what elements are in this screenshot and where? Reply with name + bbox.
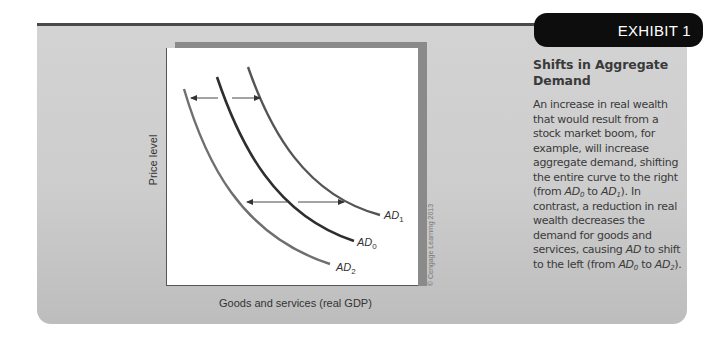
- exhibit-description: Shifts in Aggregate Demand An increase i…: [533, 57, 683, 272]
- x-axis-label: Goods and services (real GDP): [219, 297, 372, 309]
- exhibit-title: Shifts in Aggregate Demand: [533, 57, 683, 89]
- chart-plot-area: [166, 48, 418, 286]
- exhibit-badge: EXHIBIT 1: [534, 13, 703, 47]
- copyright-credit: © Cengage Learning 2013: [427, 204, 434, 286]
- y-axis-label: Price level: [147, 135, 159, 186]
- exhibit-body: An increase in real wealth that would re…: [533, 98, 683, 272]
- exhibit-badge-label: EXHIBIT 1: [618, 22, 691, 39]
